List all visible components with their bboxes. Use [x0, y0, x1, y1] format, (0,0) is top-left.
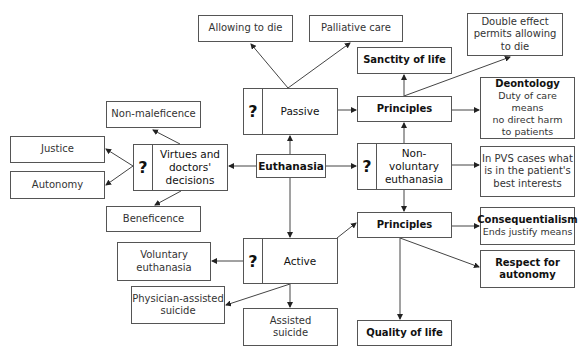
virtues-box: ? Virtues and doctors' decisions [133, 144, 228, 191]
non-voluntary-label: Non-voluntary euthanasia [377, 144, 451, 189]
principles-bottom-box: Principles [357, 212, 452, 238]
active-box: ? Active [243, 238, 338, 284]
consequentialism-box: Consequentialism Ends justify means [480, 207, 575, 245]
beneficence-box: Beneficence [106, 206, 201, 232]
consequentialism-text: Ends justify means [483, 226, 573, 238]
quality-of-life-box: Quality of life [357, 320, 452, 346]
euthanasia-label: Euthanasia [258, 160, 324, 173]
passive-label: Passive [263, 89, 337, 134]
non-maleficence-box: Non-maleficence [106, 101, 201, 128]
assisted-suicide-label: Assisted suicide [270, 315, 312, 340]
deontology-box: Deontology Duty of care means no direct … [480, 77, 575, 139]
pvs-label: In PVS cases what is in the patient's be… [482, 153, 573, 191]
active-label: Active [263, 239, 337, 283]
deontology-title: Deontology [495, 78, 560, 91]
question-mark: ? [358, 144, 377, 189]
virtues-label: Virtues and doctors' decisions [153, 145, 227, 190]
question-mark: ? [244, 239, 263, 283]
pvs-box: In PVS cases what is in the patient's be… [480, 146, 575, 197]
physician-assisted-label: Physician-assisted suicide [132, 293, 224, 318]
voluntary-euthanasia-label: Voluntary euthanasia [136, 249, 191, 274]
allowing-to-die-label: Allowing to die [209, 22, 283, 35]
respect-autonomy-label: Respect for autonomy [495, 257, 560, 282]
principles-top-box: Principles [357, 96, 452, 122]
beneficence-label: Beneficence [123, 213, 184, 226]
principles-top-label: Principles [377, 103, 432, 116]
assisted-suicide-box: Assisted suicide [243, 308, 338, 346]
sanctity-of-life-label: Sanctity of life [363, 54, 446, 67]
justice-box: Justice [10, 136, 105, 163]
double-effect-label: Double effect permits allowing to die [474, 16, 557, 54]
quality-of-life-label: Quality of life [366, 327, 443, 340]
palliative-care-label: Palliative care [321, 22, 391, 35]
voluntary-euthanasia-box: Voluntary euthanasia [117, 242, 211, 281]
question-mark: ? [244, 89, 263, 134]
allowing-to-die-box: Allowing to die [198, 15, 293, 42]
autonomy-box: Autonomy [10, 171, 105, 199]
question-mark: ? [134, 145, 153, 190]
palliative-care-box: Palliative care [309, 15, 403, 42]
non-maleficence-label: Non-maleficence [111, 108, 195, 121]
autonomy-label: Autonomy [32, 179, 83, 192]
double-effect-box: Double effect permits allowing to die [467, 13, 563, 56]
consequentialism-title: Consequentialism [477, 214, 577, 227]
euthanasia-center-box: Euthanasia [256, 154, 326, 178]
sanctity-of-life-box: Sanctity of life [357, 47, 452, 74]
passive-box: ? Passive [243, 88, 338, 135]
physician-assisted-box: Physician-assisted suicide [131, 286, 225, 324]
deontology-text: Duty of care means no direct harm to pat… [481, 90, 574, 138]
principles-bottom-label: Principles [377, 219, 432, 232]
justice-label: Justice [41, 143, 74, 156]
respect-autonomy-box: Respect for autonomy [480, 250, 575, 288]
non-voluntary-box: ? Non-voluntary euthanasia [357, 143, 452, 190]
